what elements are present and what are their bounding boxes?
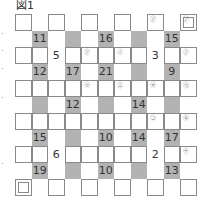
blank-cell[interactable] bbox=[81, 14, 98, 31]
scan-dot bbox=[2, 50, 3, 51]
blank-cell[interactable] bbox=[48, 179, 65, 196]
blank-cell[interactable] bbox=[15, 146, 32, 163]
blank-cell[interactable] bbox=[32, 80, 49, 97]
cell-number: 10 bbox=[99, 165, 113, 176]
clue-cell: 14 bbox=[131, 130, 148, 147]
blank-cell[interactable]: ㋔ bbox=[147, 80, 164, 97]
cell-number: 15 bbox=[165, 33, 179, 44]
cell-number: 21 bbox=[99, 66, 113, 77]
blank-cell[interactable] bbox=[131, 80, 148, 97]
blank-cell[interactable] bbox=[15, 80, 32, 97]
blank-cell[interactable]: ㋐ bbox=[180, 47, 197, 64]
clue-cell: 21 bbox=[98, 64, 115, 81]
given-number-cell: 5 bbox=[48, 47, 65, 64]
clue-cell: 13 bbox=[164, 163, 181, 180]
clue-cell: 19 bbox=[32, 163, 49, 180]
clue-cell bbox=[65, 130, 82, 147]
clue-cell bbox=[65, 163, 82, 180]
blank-cell[interactable] bbox=[81, 113, 98, 130]
cell-number: 16 bbox=[99, 33, 113, 44]
blank-cell[interactable] bbox=[48, 14, 65, 31]
clue-cell: 10 bbox=[98, 130, 115, 147]
blank-cell[interactable] bbox=[32, 113, 49, 130]
clue-cell bbox=[131, 64, 148, 81]
blank-cell[interactable] bbox=[114, 179, 131, 196]
cell-number: 3 bbox=[152, 50, 159, 61]
cell-number: 17 bbox=[165, 132, 179, 143]
circled-katakana-marker: ㋑ bbox=[117, 49, 123, 55]
blank-cell[interactable] bbox=[32, 146, 49, 163]
blank-cell[interactable] bbox=[98, 80, 115, 97]
blank-cell[interactable]: ㋖ bbox=[180, 113, 197, 130]
clue-cell bbox=[131, 163, 148, 180]
blank-cell[interactable]: ㋑ bbox=[114, 47, 131, 64]
blank-cell[interactable]: ㋐ bbox=[81, 47, 98, 64]
blank-cell[interactable] bbox=[15, 14, 32, 31]
cell-number: 12 bbox=[33, 66, 47, 77]
circled-katakana-marker: ㋐ bbox=[150, 16, 156, 22]
blank-cell[interactable] bbox=[147, 179, 164, 196]
blank-cell[interactable] bbox=[15, 113, 32, 130]
blank-cell[interactable] bbox=[114, 113, 131, 130]
blank-cell[interactable] bbox=[65, 113, 82, 130]
blank-cell[interactable] bbox=[131, 47, 148, 64]
scan-dot bbox=[2, 68, 3, 69]
cell-number: 14 bbox=[132, 99, 146, 110]
blank-cell[interactable]: ㋓ bbox=[114, 80, 131, 97]
blank-cell[interactable] bbox=[32, 47, 49, 64]
scan-dot bbox=[2, 97, 3, 98]
clue-cell: 17 bbox=[164, 130, 181, 147]
cell-number: 6 bbox=[53, 149, 60, 160]
blank-cell[interactable] bbox=[164, 80, 181, 97]
given-number-cell: 6 bbox=[48, 146, 65, 163]
blank-cell[interactable] bbox=[114, 146, 131, 163]
clue-cell: 9 bbox=[164, 64, 181, 81]
blank-cell[interactable] bbox=[48, 80, 65, 97]
scan-dot bbox=[2, 33, 3, 34]
answer-cell[interactable] bbox=[15, 179, 32, 196]
cell-number: 9 bbox=[168, 66, 175, 77]
circled-katakana-marker: ㋐ bbox=[183, 49, 189, 55]
circled-katakana-marker: ㋓ bbox=[117, 82, 123, 88]
blank-cell[interactable] bbox=[98, 113, 115, 130]
blank-cell[interactable] bbox=[164, 47, 181, 64]
clue-cell bbox=[32, 97, 49, 114]
cell-number: 13 bbox=[165, 165, 179, 176]
clue-cell: 17 bbox=[65, 64, 82, 81]
cell-number: 17 bbox=[66, 66, 80, 77]
clue-cell bbox=[65, 31, 82, 48]
puzzle-grid: ㋐㋐1116155㋐㋑3㋐1217219㋒㋓㋔㋕1214㋙㋖1510141762… bbox=[15, 14, 197, 196]
blank-cell[interactable] bbox=[98, 47, 115, 64]
answer-cell[interactable]: ㋐ bbox=[180, 14, 197, 31]
circled-katakana-marker: ㋔ bbox=[150, 82, 156, 88]
blank-cell[interactable] bbox=[164, 113, 181, 130]
circled-katakana-marker: ㋕ bbox=[183, 82, 189, 88]
blank-cell[interactable] bbox=[81, 146, 98, 163]
blank-cell[interactable] bbox=[15, 47, 32, 64]
blank-cell[interactable] bbox=[164, 146, 181, 163]
blank-cell[interactable] bbox=[65, 80, 82, 97]
blank-cell[interactable] bbox=[180, 179, 197, 196]
blank-cell[interactable] bbox=[48, 113, 65, 130]
circled-katakana-marker: ㋒ bbox=[84, 82, 90, 88]
clue-cell bbox=[164, 97, 181, 114]
clue-cell: 16 bbox=[98, 31, 115, 48]
blank-cell[interactable] bbox=[98, 146, 115, 163]
clue-cell bbox=[98, 97, 115, 114]
scan-dot bbox=[2, 163, 3, 164]
blank-cell[interactable]: ㋕ bbox=[180, 80, 197, 97]
cell-number: 15 bbox=[33, 132, 47, 143]
blank-cell[interactable] bbox=[81, 179, 98, 196]
clue-cell: 10 bbox=[98, 163, 115, 180]
blank-cell[interactable] bbox=[114, 14, 131, 31]
blank-cell[interactable] bbox=[65, 146, 82, 163]
blank-cell[interactable] bbox=[131, 113, 148, 130]
blank-cell[interactable]: ㋐ bbox=[147, 14, 164, 31]
clue-cell bbox=[131, 31, 148, 48]
blank-cell[interactable]: ㋙ bbox=[147, 113, 164, 130]
blank-cell[interactable]: ㋒ bbox=[81, 80, 98, 97]
circled-katakana-marker: ㋐ bbox=[183, 16, 189, 22]
blank-cell[interactable] bbox=[65, 47, 82, 64]
blank-cell[interactable] bbox=[131, 146, 148, 163]
blank-cell[interactable]: ㋘ bbox=[180, 146, 197, 163]
